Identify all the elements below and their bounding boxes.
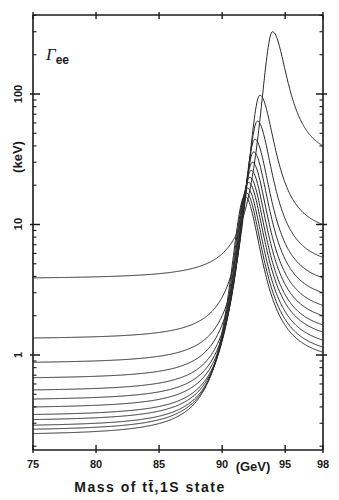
gamma-ee-curve xyxy=(33,188,323,425)
x-tick-label-85: 85 xyxy=(153,458,165,470)
gamma-subscript: ee xyxy=(56,53,70,67)
x-tick-label-95: 95 xyxy=(279,458,291,470)
gamma-ee-annotation: Γee xyxy=(45,45,69,67)
y-tick-label-10: 10 xyxy=(12,218,24,230)
x-tick-label-80: 80 xyxy=(90,458,102,470)
gamma-ee-curve xyxy=(33,32,323,278)
x-axis-unit: (GeV) xyxy=(236,459,271,474)
gamma-ee-curve xyxy=(33,162,323,399)
gamma-ee-curve xyxy=(33,139,323,377)
curves xyxy=(33,32,323,434)
x-tick-label-98: 98 xyxy=(317,458,329,470)
gamma-ee-curve xyxy=(33,170,323,407)
gamma-ee-chart: 100 10 1 (keV) Γee 75 80 85 90 95 98 (Ge… xyxy=(0,0,339,500)
x-axis-title: Mass of tt̄,1S state xyxy=(74,479,225,495)
x-tick-label-75: 75 xyxy=(27,458,39,470)
y-axis-unit: (keV) xyxy=(10,141,25,173)
x-tick-label-90: 90 xyxy=(216,458,228,470)
plot-frame xyxy=(33,15,323,450)
gamma-ee-curve xyxy=(33,121,323,362)
y-tick-label-1: 1 xyxy=(12,352,24,358)
y-tick-label-100: 100 xyxy=(12,85,24,103)
